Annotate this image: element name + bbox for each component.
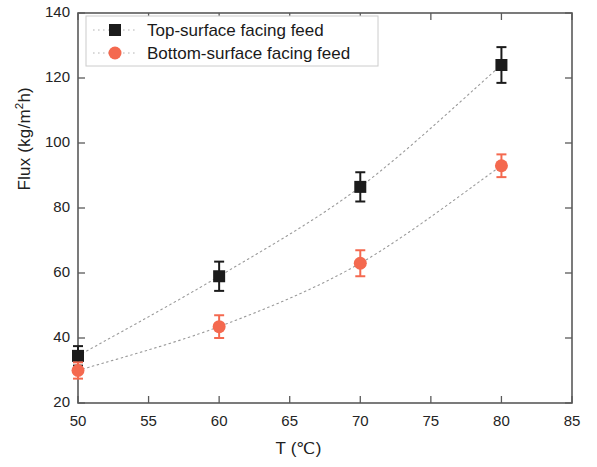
x-tick-label: 65 (270, 412, 310, 429)
x-tick-label: 60 (199, 412, 239, 429)
legend-marker-circle (109, 47, 122, 60)
plot-canvas: Top-surface facing feedBottom-surface fa… (0, 0, 597, 467)
x-tick-label: 80 (481, 412, 521, 429)
x-axis-title: T (℃) (0, 438, 597, 459)
y-tick-label: 20 (30, 393, 70, 410)
data-points (72, 47, 508, 379)
data-point (213, 262, 225, 291)
axis-ticks (78, 13, 572, 403)
data-point (213, 315, 226, 338)
x-tick-label: 50 (58, 412, 98, 429)
y-tick-label: 40 (30, 328, 70, 345)
y-axis-title-exponent: 2 (13, 103, 25, 110)
data-point (495, 47, 507, 83)
x-tick-label: 55 (129, 412, 169, 429)
x-tick-label: 85 (552, 412, 592, 429)
flux-vs-temperature-chart: Flux (kg/m2h) T (℃) Top-surface facing f… (0, 0, 597, 467)
y-tick-label: 120 (30, 68, 70, 85)
x-tick-label: 70 (340, 412, 380, 429)
y-tick-label: 80 (30, 198, 70, 215)
legend-label: Bottom-surface facing feed (147, 44, 350, 63)
y-axis-title-post: h) (15, 87, 34, 103)
y-tick-label: 60 (30, 263, 70, 280)
legend-label: Top-surface facing feed (147, 21, 324, 40)
data-point (495, 154, 508, 177)
trend-lines (78, 65, 501, 371)
y-tick-label: 100 (30, 133, 70, 150)
legend-marker-square (109, 24, 121, 36)
x-tick-label: 75 (411, 412, 451, 429)
data-point (354, 172, 366, 201)
y-tick-label: 140 (30, 3, 70, 20)
data-point (354, 250, 367, 276)
chart-legend: Top-surface facing feedBottom-surface fa… (86, 16, 378, 66)
plot-frame (78, 13, 572, 403)
